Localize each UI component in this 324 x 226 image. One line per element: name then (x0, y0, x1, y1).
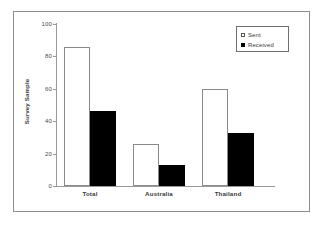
y-axis-tick-label: 100 (12, 21, 52, 27)
bar-australia-received (159, 165, 185, 186)
y-axis-tick-label: 0 (12, 183, 52, 189)
legend-item-received: Received (241, 40, 288, 49)
plot-area (57, 24, 264, 186)
y-axis-tick-label: 40 (12, 118, 52, 124)
bar-thailand-received (228, 133, 254, 186)
bar-thailand-sent (202, 89, 228, 186)
legend-item-sent: Sent (241, 30, 288, 39)
y-axis-tick-label: 20 (12, 151, 52, 157)
chart-legend: Sent Received (236, 26, 289, 52)
x-axis-label-australia: Australia (119, 190, 199, 197)
y-axis-tick-label: 80 (12, 53, 52, 59)
y-axis-tick-label-wrap: 0 (8, 183, 52, 189)
y-axis-tick-label-wrap: 60 (8, 86, 52, 92)
x-axis-line (56, 186, 275, 187)
legend-label-sent: Sent (248, 32, 261, 38)
y-axis-tick-label-wrap: 40 (8, 118, 52, 124)
x-axis-label-total: Total (50, 190, 130, 197)
y-axis-tick-label-wrap: 20 (8, 151, 52, 157)
y-axis-tick (53, 186, 57, 187)
bar-total-received (90, 111, 116, 186)
bar-australia-sent (133, 144, 159, 186)
y-axis-tick-label-wrap: 80 (8, 53, 52, 59)
legend-swatch-sent-icon (241, 33, 245, 37)
legend-swatch-received-icon (241, 43, 245, 47)
y-axis-tick-label: 60 (12, 86, 52, 92)
y-axis-title: Survey Sample (23, 62, 30, 142)
x-axis-label-thailand: Thailand (188, 190, 268, 197)
y-axis-tick-label-wrap: 100 (8, 21, 52, 27)
bar-total-sent (64, 47, 90, 186)
legend-label-received: Received (248, 42, 274, 48)
chart-figure: Survey Sample 020406080100 TotalAustrali… (0, 0, 324, 226)
